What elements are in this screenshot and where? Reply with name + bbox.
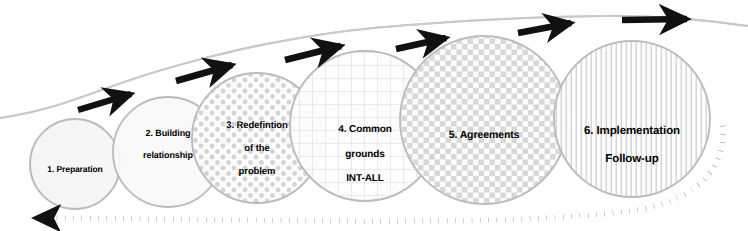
forward-arrow-2	[176, 65, 232, 81]
forward-arrow-6	[622, 19, 687, 20]
forward-arrow-4	[396, 38, 446, 49]
diagram-canvas	[0, 0, 748, 231]
forward-arrow-5	[518, 23, 571, 33]
process-diagram: 1. Preparation 2. Building relationship …	[0, 0, 748, 231]
stage-circle-1	[30, 119, 120, 209]
stage-circle-5	[400, 36, 568, 204]
stage-circle-6	[554, 41, 710, 197]
